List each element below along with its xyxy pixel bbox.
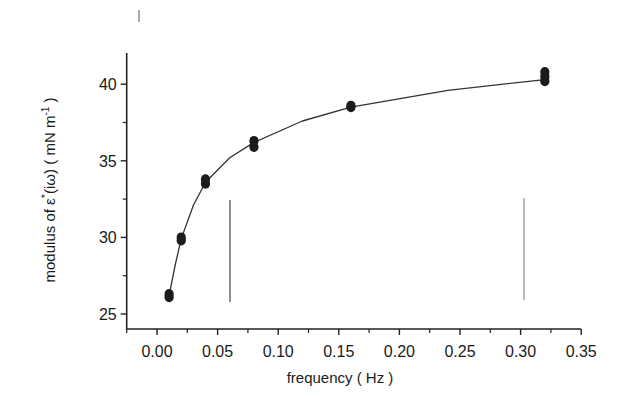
data-point — [177, 232, 186, 242]
chart: 0.000.050.100.150.200.250.300.3525303540… — [0, 0, 635, 411]
x-tick-label: 0.20 — [384, 343, 415, 360]
fit-curve — [169, 80, 545, 296]
y-tick-label: 30 — [99, 229, 117, 246]
scan-artifacts — [139, 10, 524, 302]
data-points — [165, 67, 550, 302]
x-tick-label: 0.30 — [505, 343, 536, 360]
data-point — [165, 289, 174, 299]
y-axis-title: modulus of ε*(iω) ( mN m-1 ) — [39, 98, 58, 283]
ticks: 0.000.050.100.150.200.250.300.3525303540 — [99, 76, 597, 360]
x-tick-label: 0.10 — [263, 343, 294, 360]
data-point — [346, 101, 355, 111]
x-axis-title: frequency ( Hz ) — [287, 369, 394, 386]
data-point — [201, 174, 210, 184]
y-tick-label: 40 — [99, 76, 117, 93]
y-tick-label: 35 — [99, 153, 117, 170]
data-point — [540, 67, 549, 77]
y-tick-label: 25 — [99, 306, 117, 323]
fit-line — [169, 80, 545, 296]
data-point — [249, 136, 258, 146]
x-tick-label: 0.25 — [444, 343, 475, 360]
x-tick-label: 0.35 — [566, 343, 597, 360]
x-tick-label: 0.15 — [323, 343, 354, 360]
axes — [127, 53, 582, 329]
x-tick-label: 0.05 — [202, 343, 233, 360]
x-tick-label: 0.00 — [141, 343, 172, 360]
